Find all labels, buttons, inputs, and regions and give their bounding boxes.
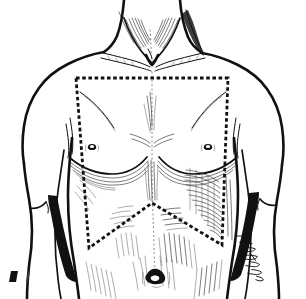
linea-alba-guide — [152, 72, 155, 274]
figure-canvas — [0, 0, 306, 299]
midline-group — [130, 72, 174, 274]
nipple-right — [201, 144, 215, 151]
anatomical-figure — [0, 0, 306, 299]
sternocleidomastoid-group — [119, 10, 204, 65]
pectoral-group — [66, 92, 240, 190]
axilla-shadow-left — [48, 195, 77, 282]
nipple-left — [85, 144, 99, 151]
external-oblique-hatch-right — [185, 168, 232, 240]
